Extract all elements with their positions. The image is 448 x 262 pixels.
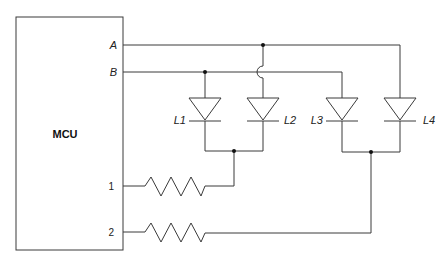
mcu-label: MCU (52, 128, 77, 140)
circuit-diagram: MCU A B 1 2 L1 L2 L3 L4 (0, 0, 448, 262)
led-l4-label: L4 (423, 114, 435, 126)
junction-l3-l4 (369, 150, 373, 154)
led-l2 (247, 98, 279, 151)
led-l3 (326, 98, 358, 152)
pin-2-label: 2 (108, 227, 114, 238)
led-l1 (189, 98, 221, 151)
resistor-r1 (123, 177, 209, 196)
junction-a (261, 43, 265, 47)
pin-a-label: A (109, 39, 117, 51)
pin-b-label: B (110, 66, 117, 78)
junction-l1-l2 (232, 149, 236, 153)
resistor-r2 (123, 223, 209, 242)
led-l4 (384, 98, 416, 152)
net-b-wire (123, 70, 342, 98)
cathode-join-l1-l2 (205, 149, 263, 186)
pin-1-label: 1 (108, 181, 114, 192)
cathode-join-l3-l4 (209, 150, 400, 233)
led-l2-label: L2 (284, 114, 296, 126)
led-l1-label: L1 (174, 114, 186, 126)
net-a-wire (123, 43, 400, 98)
junction-b (203, 70, 207, 74)
led-l3-label: L3 (311, 114, 324, 126)
